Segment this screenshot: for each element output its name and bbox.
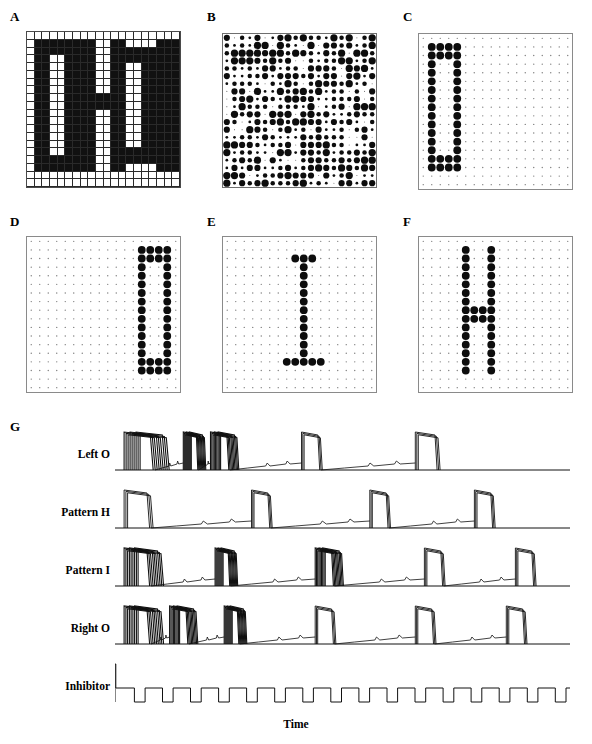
trace-label-right-o: Right O (0, 622, 110, 634)
panel-label-f: F (403, 215, 411, 228)
trace-label-inhibitor: Inhibitor (0, 680, 110, 692)
panel-a-bitmap (26, 31, 181, 188)
trace-label-left-o: Left O (0, 448, 110, 460)
trace-left-o (115, 426, 570, 474)
panel-b-random-activity (222, 33, 377, 188)
panel-label-b: B (207, 10, 216, 23)
panel-e-pattern-i-activity (222, 236, 377, 393)
x-axis-label: Time (0, 718, 592, 730)
trace-label-pattern-h: Pattern H (0, 506, 110, 518)
trace-pattern-h (115, 484, 570, 532)
trace-label-pattern-i: Pattern I (0, 564, 110, 576)
trace-inhibitor (115, 658, 570, 706)
panel-a-grid (27, 32, 180, 187)
panel-g-time-series: Left OPattern HPattern IRight OInhibitor (0, 414, 592, 744)
panel-label-c: C (403, 10, 412, 23)
trace-pattern-i (115, 542, 570, 590)
panel-label-e: E (207, 215, 216, 228)
panel-f-pattern-h-activity (418, 236, 573, 393)
panel-label-a: A (10, 10, 19, 23)
panel-label-d: D (10, 215, 19, 228)
panel-d-right-o-activity (26, 236, 181, 393)
panel-c-left-o-activity (418, 33, 573, 190)
trace-right-o (115, 600, 570, 648)
